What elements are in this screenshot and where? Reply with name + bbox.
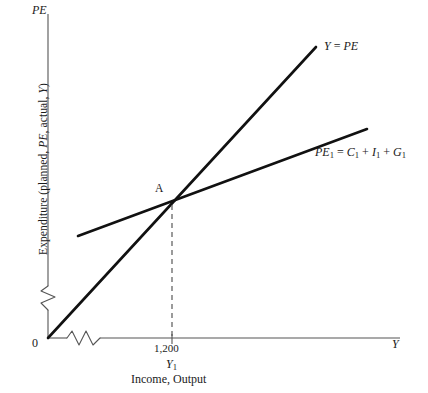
y-axis-symbol: PE bbox=[32, 4, 47, 16]
xtick-y1-sub: 1 bbox=[173, 362, 177, 372]
xtick-label-1200: 1,200 bbox=[154, 343, 179, 354]
line-y-equals-pe bbox=[48, 47, 316, 338]
series-label-pe: PE bbox=[343, 39, 358, 53]
pe1-label-pe: PE bbox=[315, 145, 330, 159]
pe1-label-g: G bbox=[393, 145, 402, 159]
xtick-label-y1: Y1 bbox=[166, 358, 177, 372]
keynesian-cross-figure: PE Y 0 Expenditure (planned, PE, actual,… bbox=[0, 0, 428, 393]
series-label-y-equals-pe: Y = PE bbox=[324, 40, 358, 52]
y-axis-title-y: Y bbox=[37, 87, 49, 94]
x-axis-symbol: Y bbox=[392, 338, 399, 350]
y-axis-title-mid: , actual, bbox=[37, 93, 49, 133]
series-label-eq: = bbox=[331, 39, 344, 53]
pe1-label-eq: = bbox=[334, 145, 347, 159]
plot-area bbox=[0, 0, 428, 393]
series-label-y: Y bbox=[324, 39, 331, 53]
pe1-label-plus1: + bbox=[359, 145, 372, 159]
annotation-point-a: A bbox=[155, 183, 163, 195]
y-axis-title-pre: Expenditure (planned, bbox=[37, 148, 49, 255]
series-label-pe1: PE1 = C1 + I1 + G1 bbox=[315, 146, 406, 160]
y-axis-title: Expenditure (planned, PE, actual, Y) bbox=[33, 49, 51, 289]
pe1-label-g-sub: 1 bbox=[402, 150, 406, 160]
y-axis-title-post: ) bbox=[37, 83, 49, 87]
y-axis-break-zigzag-icon bbox=[41, 286, 55, 310]
x-axis-title: Income, Output bbox=[131, 373, 206, 385]
pe1-label-plus2: + bbox=[380, 145, 393, 159]
y-axis-title-pe: PE bbox=[37, 133, 49, 147]
xtick-y1-base: Y bbox=[166, 357, 173, 371]
origin-label: 0 bbox=[32, 337, 38, 349]
x-axis-break-zigzag-icon bbox=[67, 331, 100, 345]
pe1-label-c: C bbox=[347, 145, 355, 159]
